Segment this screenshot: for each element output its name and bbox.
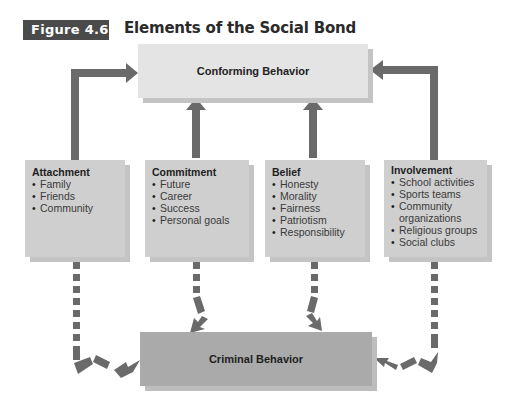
list-item: School activities [391, 176, 481, 188]
list-item: Personal goals [152, 214, 243, 226]
dashed-arrow-belief-icon [306, 262, 322, 331]
solid-arrow-attachment-icon [71, 63, 138, 161]
list-item: Friends [32, 190, 119, 202]
list-item: Social clubs [391, 236, 481, 248]
conforming-behavior-label: Conforming Behavior [197, 65, 309, 77]
list-item: Community [32, 202, 119, 214]
list-item: Honesty [272, 178, 359, 190]
element-box-attachment: Attachment Family Friends Community [25, 160, 125, 257]
list-item: Fairness [272, 202, 359, 214]
list-item: Patriotism [272, 214, 359, 226]
dashed-arrow-attachment-icon [73, 262, 140, 378]
list-item: Future [152, 178, 243, 190]
list-item: Religious groups [391, 224, 481, 236]
list-item: Sports teams [391, 188, 481, 200]
element-box-belief: Belief Honesty Morality Fairness Patriot… [265, 160, 365, 257]
element-title: Belief [272, 166, 359, 178]
solid-arrow-commitment-icon [186, 98, 206, 158]
criminal-behavior-label: Criminal Behavior [209, 353, 303, 365]
list-item: Success [152, 202, 243, 214]
conforming-behavior-box: Conforming Behavior [138, 44, 368, 98]
element-box-involvement: Involvement School activities Sports tea… [384, 160, 487, 257]
list-item: Family [32, 178, 119, 190]
solid-arrow-belief-icon [303, 98, 323, 158]
dashed-arrow-commitment-icon [190, 262, 208, 333]
list-item: Community organizations [391, 200, 481, 224]
criminal-behavior-box: Criminal Behavior [140, 332, 372, 386]
list-item: Morality [272, 190, 359, 202]
element-box-commitment: Commitment Future Career Success Persona… [145, 160, 249, 257]
list-item: Career [152, 190, 243, 202]
element-title: Involvement [391, 164, 481, 176]
solid-arrow-involvement-icon [370, 60, 438, 161]
element-title: Attachment [32, 166, 119, 178]
dashed-arrow-involvement-icon [374, 262, 438, 373]
list-item: Responsibility [272, 226, 359, 238]
element-title: Commitment [152, 166, 243, 178]
